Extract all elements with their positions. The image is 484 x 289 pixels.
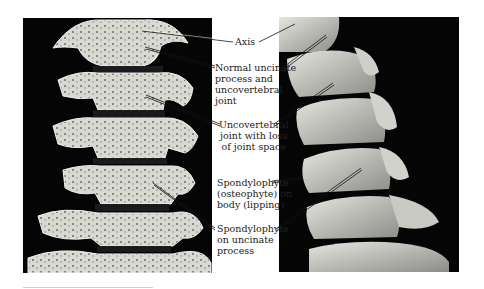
label-spondylophyte-uncinate: Spondylophyte on uncinate process: [217, 223, 289, 256]
label-uncovertebral-loss: Uncovertebral joint with loss of joint s…: [219, 119, 288, 152]
label-spondylophyte-body: Spondylophyte (osteophyte) on body (lipp…: [217, 177, 292, 210]
label-axis: Axis: [235, 36, 255, 47]
label-normal-uncinate: Normal uncinate process and uncovertebra…: [215, 62, 296, 106]
footer-rule: [23, 287, 153, 288]
